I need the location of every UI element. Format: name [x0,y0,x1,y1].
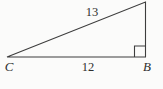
right-angle-marker [135,46,146,57]
right-triangle-figure: 13 12 C B [0,0,163,89]
triangle-outline [7,2,146,57]
vertex-b-label: B [143,59,151,74]
hypotenuse-label: 13 [86,5,99,19]
vertex-c-label: C [5,59,14,74]
base-label: 12 [82,60,95,74]
geometry-diagram-canvas: 13 12 C B [0,0,163,89]
